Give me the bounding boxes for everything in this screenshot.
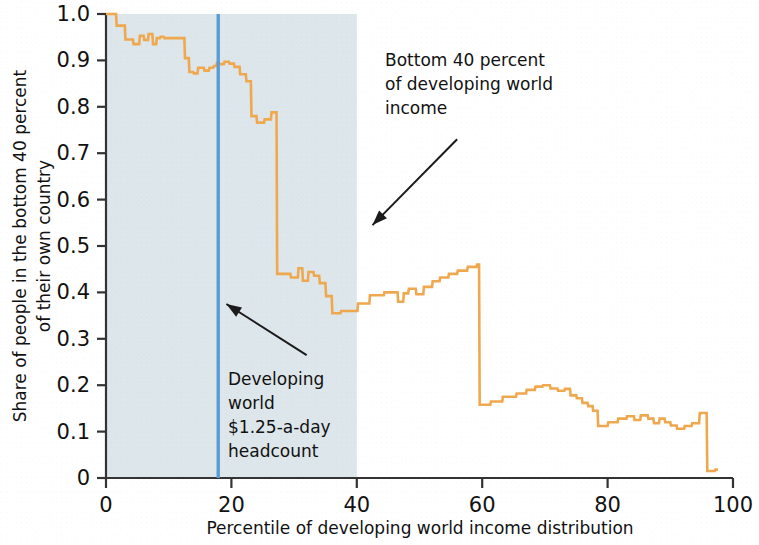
headcount-annotation-line3: $1.25-a-day bbox=[228, 417, 331, 437]
x-axis-tick-labels: 020406080100 bbox=[99, 493, 753, 517]
bottom40-annotation-line2: of developing world bbox=[385, 74, 553, 94]
y-tick-label: 0.6 bbox=[57, 188, 90, 212]
y-axis-ticks bbox=[97, 14, 106, 478]
headcount-annotation-line4: headcount bbox=[228, 441, 319, 461]
x-axis-ticks bbox=[106, 478, 733, 488]
headcount-annotation-line1: Developing bbox=[228, 369, 324, 389]
y-axis-title-line1: Share of people in the bottom 40 percent bbox=[10, 69, 30, 422]
x-axis-title: Percentile of developing world income di… bbox=[206, 518, 633, 538]
bottom40-annotation-line3: income bbox=[385, 98, 447, 118]
y-axis-title-line2: of their own country bbox=[34, 160, 54, 332]
y-tick-label: 0.4 bbox=[57, 280, 90, 304]
x-tick-label: 0 bbox=[99, 493, 112, 517]
x-tick-label: 40 bbox=[343, 493, 370, 517]
headcount-annotation-line2: world bbox=[228, 393, 275, 413]
y-tick-label: 0 bbox=[77, 466, 90, 490]
y-tick-label: 1.0 bbox=[57, 2, 90, 26]
bottom40-annotation-line1: Bottom 40 percent bbox=[385, 50, 545, 70]
x-tick-label: 80 bbox=[594, 493, 621, 517]
chart-figure: 00.10.20.30.40.50.60.70.80.91.0 02040608… bbox=[0, 0, 759, 545]
x-tick-label: 100 bbox=[713, 493, 753, 517]
y-tick-label: 0.9 bbox=[57, 48, 90, 72]
income-distribution-line-chart: 00.10.20.30.40.50.60.70.80.91.0 02040608… bbox=[0, 0, 759, 545]
x-tick-label: 60 bbox=[469, 493, 496, 517]
y-axis-tick-labels: 00.10.20.30.40.50.60.70.80.91.0 bbox=[57, 2, 90, 490]
y-tick-label: 0.1 bbox=[57, 420, 90, 444]
y-tick-label: 0.2 bbox=[57, 373, 90, 397]
y-tick-label: 0.7 bbox=[57, 141, 90, 165]
y-tick-label: 0.8 bbox=[57, 95, 90, 119]
x-tick-label: 20 bbox=[218, 493, 245, 517]
y-tick-label: 0.3 bbox=[57, 327, 90, 351]
y-tick-label: 0.5 bbox=[57, 234, 90, 258]
